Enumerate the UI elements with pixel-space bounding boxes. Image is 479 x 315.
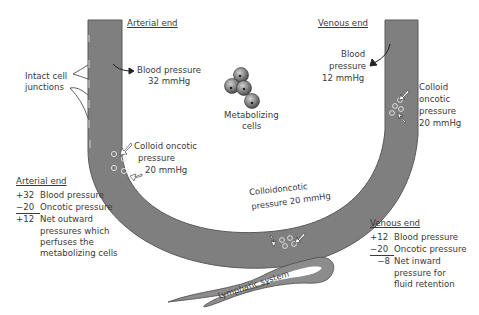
metabolizing-cells [225, 68, 260, 109]
venous-calc-continuation-1: pressure for [370, 268, 467, 279]
venous-calc-value: −8 [370, 256, 394, 267]
arterial-calc-continuation-2: perfuses the [16, 237, 118, 248]
arterial-calc-row: +12 Net outward [16, 214, 118, 225]
venous-bp-label-line1: Blood [341, 49, 365, 60]
venous-end-label: Venous end [318, 18, 368, 29]
venous-calc-value: −20 [370, 244, 394, 256]
intact-junctions-label-line1: Intact cell [25, 71, 67, 82]
arterial-calc-value: +12 [16, 214, 40, 225]
venous-calc-value: +12 [370, 232, 394, 243]
arterial-calc-value: +32 [16, 190, 40, 201]
colloid-right-label-line2: oncotic [419, 94, 450, 105]
capillary-exchange-diagram: Arterial end Venous end Intact cell junc… [0, 0, 479, 315]
venous-calc-row: +12 Blood pressure [370, 232, 467, 243]
colloid-left-label-line2: pressure [138, 153, 175, 164]
arterial-calc-value: −20 [16, 202, 40, 214]
intact-junctions-label-line2: junctions [25, 82, 64, 93]
colloid-right-label-line3: pressure [419, 106, 456, 117]
venous-calc-text: Blood pressure [394, 232, 458, 243]
venous-calculation: Venous end +12 Blood pressure −20 Oncoti… [370, 218, 467, 290]
arterial-end-label: Arterial end [127, 18, 178, 29]
venous-calc-heading: Venous end [370, 218, 467, 229]
arterial-bp-label-line2: 32 mmHg [148, 76, 190, 87]
colloid-right-label-line1: Colloid [419, 82, 448, 93]
colloid-left-label-line1: Colloid oncotic [134, 141, 197, 152]
arterial-calculation: Arterial end +32 Blood pressure −20 Onco… [16, 176, 118, 260]
venous-calc-text: Oncotic pressure [394, 244, 467, 256]
arterial-calc-heading: Arterial end [16, 176, 118, 187]
colloid-right-label-line4: 20 mmHg [419, 118, 461, 129]
arterial-calc-text: Net outward [40, 214, 93, 225]
arterial-calc-row: −20 Oncotic pressure [16, 202, 118, 214]
metabolizing-cells-label-line2: cells [242, 121, 261, 132]
arterial-bp-label-line1: Blood pressure [137, 65, 201, 76]
junction-pointer-lines [70, 65, 88, 118]
metabolizing-cells-label-line1: Metabolizing [224, 110, 279, 121]
arterial-calc-text: Blood pressure [40, 190, 104, 201]
arterial-calc-text: Oncotic pressure [40, 202, 113, 214]
venous-calc-text: Net inward [394, 256, 441, 267]
venous-calc-row: −8 Net inward [370, 256, 467, 267]
venous-calc-row: −20 Oncotic pressure [370, 244, 467, 256]
colloid-left-label-line3: 20 mmHg [145, 165, 187, 176]
arterial-calc-continuation-1: pressures which [16, 226, 118, 237]
venous-bp-label-line2: pressure [329, 61, 366, 72]
venous-calc-continuation-2: fluid retention [370, 279, 467, 290]
venous-bp-label-line3: 12 mmHg [322, 73, 364, 84]
arterial-calc-continuation-3: metabolizing cells [16, 248, 118, 259]
arterial-calc-row: +32 Blood pressure [16, 190, 118, 201]
